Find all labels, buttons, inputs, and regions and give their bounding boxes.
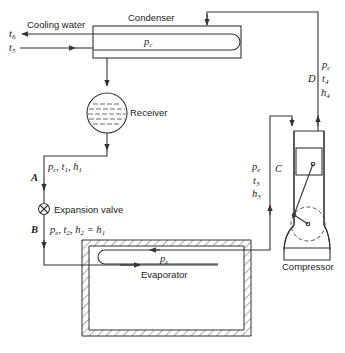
cooling-water-inlet-temp: t5 — [9, 42, 16, 55]
compressor: Compressor — [282, 131, 334, 272]
evaporator: pe Evaporator — [82, 240, 251, 336]
compressor-label: Compressor — [282, 261, 334, 272]
state-A-letter: A — [30, 172, 38, 183]
state-C-h: h3 — [252, 188, 261, 201]
flow-line-C — [232, 116, 292, 250]
state-A-props: pc, t1, h1 — [47, 161, 82, 174]
cooling-water: Cooling water t6 t5 — [9, 19, 93, 55]
state-C-p: pe — [251, 161, 260, 174]
refrigeration-cycle-diagram: Condenser pc Cooling water t6 t5 Receive… — [0, 0, 345, 353]
state-C-letter: C — [275, 163, 283, 174]
receiver: Receiver — [87, 93, 168, 133]
condenser: Condenser pc — [93, 12, 241, 58]
state-B-props: pe, t2, h2 = h1 — [49, 224, 105, 237]
state-D-h: h4 — [321, 87, 330, 100]
expansion-valve-label: Expansion valve — [54, 204, 123, 215]
cooling-water-outlet-temp: t6 — [9, 28, 16, 41]
evaporator-label: Evaporator — [141, 269, 187, 280]
condenser-label: Condenser — [128, 12, 174, 23]
receiver-label: Receiver — [130, 107, 168, 118]
state-C-t: t3 — [253, 175, 260, 188]
state-D-t: t4 — [322, 73, 329, 86]
state-B-letter: B — [30, 224, 38, 235]
flow-line-A — [44, 150, 107, 203]
state-D-letter: D — [307, 73, 316, 84]
cooling-water-label: Cooling water — [27, 19, 85, 30]
state-D-p: pc — [321, 59, 331, 72]
flow-line-D — [207, 12, 318, 131]
condenser-pressure: pc — [143, 36, 153, 49]
expansion-valve: Expansion valve — [39, 204, 124, 216]
